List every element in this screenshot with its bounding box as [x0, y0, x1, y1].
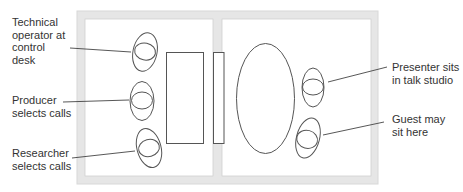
label-researcher: Researcher selects calls — [12, 147, 71, 172]
talk-studio-floor — [222, 19, 371, 176]
label-guest: Guest may sit here — [392, 113, 445, 138]
studio-window — [214, 53, 225, 144]
label-presenter: Presenter sits in talk studio — [392, 61, 459, 86]
control-room-floor — [85, 19, 213, 176]
label-technical-operator: Technical operator at control desk — [12, 16, 65, 66]
label-producer: Producer selects calls — [12, 94, 71, 119]
walls — [77, 11, 378, 184]
